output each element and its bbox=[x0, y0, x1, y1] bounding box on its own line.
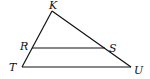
segment-KU bbox=[52, 11, 131, 67]
label-R: R bbox=[19, 40, 28, 53]
label-K: K bbox=[48, 0, 58, 12]
label-U: U bbox=[134, 64, 144, 77]
label-S: S bbox=[109, 42, 117, 55]
segment-KT bbox=[22, 11, 52, 67]
triangle-diagram: K R S T U bbox=[0, 0, 150, 79]
label-T: T bbox=[9, 61, 18, 74]
